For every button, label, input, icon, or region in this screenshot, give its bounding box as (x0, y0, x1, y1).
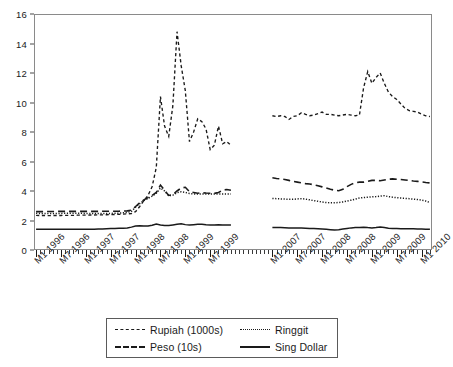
y-tick-label: 2 (22, 215, 27, 226)
series-sing-dollar-panel-2007-2010 (272, 227, 430, 230)
series-ringgit-panel-1996-1999 (36, 188, 231, 214)
y-tick-label: 6 (22, 156, 27, 167)
x-minor-tick (131, 250, 132, 254)
x-minor-tick (252, 250, 253, 254)
x-axis-labels: M1 1996M7 1996M1 1997M7 1997M1 1998M7 19… (0, 256, 443, 306)
series-peso-panel-2007-2010 (272, 178, 430, 191)
y-axis: 0246810121416 (0, 14, 34, 250)
x-minor-tick (82, 250, 83, 254)
x-minor-tick (231, 250, 232, 254)
x-minor-tick (107, 250, 108, 254)
chart-legend: Rupiah (1000s) Ringgit Peso (10s) Sing D… (106, 318, 338, 358)
x-minor-tick (243, 250, 244, 254)
legend-label-peso: Peso (10s) (150, 341, 202, 353)
short-dash-line-icon (115, 329, 145, 330)
x-minor-tick (268, 250, 269, 254)
y-tick-label: 14 (16, 38, 27, 49)
x-minor-tick (57, 250, 58, 254)
x-minor-tick (235, 250, 236, 254)
long-dash-line-icon (115, 346, 145, 348)
x-minor-tick (393, 250, 394, 254)
x-minor-tick (368, 250, 369, 254)
series-layer (34, 14, 432, 250)
legend-label-rupiah: Rupiah (1000s) (150, 324, 223, 336)
x-minor-tick (293, 250, 294, 254)
x-minor-tick (256, 250, 257, 254)
series-sing-dollar-panel-1996-1999 (36, 224, 231, 230)
series-rupiah-panel-2007-2010 (272, 72, 430, 120)
x-minor-tick (239, 250, 240, 254)
y-tick-label: 0 (22, 245, 27, 256)
x-minor-tick (264, 250, 265, 254)
y-tick-label: 8 (22, 127, 27, 138)
legend-item-ringgit: Ringgit (240, 324, 347, 336)
x-minor-tick (417, 250, 418, 254)
x-minor-tick (318, 250, 319, 254)
x-minor-tick (343, 250, 344, 254)
legend-item-rupiah: Rupiah (1000s) (115, 324, 240, 336)
solid-line-icon (240, 346, 270, 348)
y-tick-label: 4 (22, 186, 27, 197)
legend-item-peso: Peso (10s) (115, 341, 240, 353)
series-ringgit-panel-2007-2010 (272, 196, 430, 203)
legend-label-ringgit: Ringgit (275, 324, 308, 336)
legend-item-sing-dollar: Sing Dollar (240, 341, 347, 353)
y-tick-label: 16 (16, 9, 27, 20)
y-tick-label: 12 (16, 68, 27, 79)
x-minor-tick (260, 250, 261, 254)
legend-label-sing-dollar: Sing Dollar (275, 341, 327, 353)
x-minor-tick (181, 250, 182, 254)
series-peso-panel-1996-1999 (36, 185, 231, 212)
x-minor-tick (206, 250, 207, 254)
y-tick-label: 10 (16, 97, 27, 108)
x-minor-tick (156, 250, 157, 254)
series-rupiah-panel-1996-1999 (36, 32, 231, 216)
x-minor-tick (248, 250, 249, 254)
dotted-line-icon (240, 329, 270, 330)
